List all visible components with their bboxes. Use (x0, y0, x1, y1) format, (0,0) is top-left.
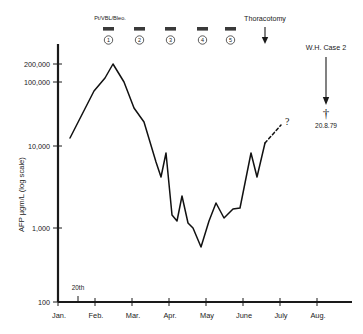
treatment-cycle-4: 4 (197, 27, 208, 44)
thoracotomy-arrow-head (262, 37, 268, 44)
thoracotomy-annotation: Thoracotomy (244, 14, 286, 44)
y-tick-label-100: 100 (38, 298, 50, 307)
treatment-cycle-2: 2 (134, 27, 145, 44)
cycle-bar-5 (225, 27, 236, 31)
y-tick-label-200000: 200,000 (24, 60, 50, 69)
cycle-number-4: 4 (201, 37, 204, 43)
cycle-number-5: 5 (229, 37, 232, 43)
chart-canvas: 200,000 100,000 10,000 1,000 100 AFP µgm… (0, 0, 363, 334)
start-day-label: 20th (72, 284, 85, 291)
y-axis-ticks: 200,000 100,000 10,000 1,000 100 (24, 60, 62, 307)
case-label: W.H. Case 2 (306, 43, 346, 52)
cycle-bar-1 (103, 27, 114, 31)
afp-curve-measured (70, 64, 265, 247)
case-death-annotation: W.H. Case 2 † 20.8.79 (306, 43, 346, 129)
y-tick-label-10000: 10,000 (28, 142, 50, 151)
death-arrow-head (323, 97, 329, 105)
x-tick-label-july: July (274, 311, 287, 320)
treatment-cycle-5: 5 (225, 27, 236, 44)
cycle-number-2: 2 (138, 37, 141, 43)
death-date-label: 20.8.79 (315, 122, 337, 129)
death-dagger-icon: † (323, 106, 330, 121)
cycle-bar-3 (165, 27, 176, 31)
treatment-cycle-3: 3 (165, 27, 176, 44)
uncertainty-question-mark: ? (285, 116, 290, 127)
cycle-bar-4 (197, 27, 208, 31)
treatment-cycles-group: 1 2 3 4 5 (103, 27, 236, 44)
start-day-note: 20th (72, 284, 85, 302)
y-axis-title: AFP µgm/L (log scale) (17, 157, 26, 232)
x-tick-label-aug: Aug. (310, 311, 325, 320)
y-tick-label-100000: 100,000 (24, 78, 50, 87)
y-tick-label-1000: 1,000 (32, 224, 50, 233)
x-tick-label-may: May (200, 311, 214, 320)
afp-curve-projected (265, 125, 281, 143)
axis-group (58, 44, 352, 302)
afp-tumour-marker-chart: 200,000 100,000 10,000 1,000 100 AFP µgm… (0, 0, 363, 334)
cycle-number-1: 1 (107, 37, 110, 43)
x-tick-label-mar: Mar. (126, 311, 140, 320)
x-tick-label-feb: Feb. (89, 311, 104, 320)
thoracotomy-label: Thoracotomy (244, 14, 286, 23)
x-tick-label-apr: Apr. (163, 311, 176, 320)
cycle-bar-2 (134, 27, 145, 31)
regimen-label: Pt/VBL/Bleo. (94, 15, 126, 21)
x-tick-label-jan: Jan. (52, 311, 66, 320)
cycle-number-3: 3 (169, 37, 172, 43)
x-tick-label-june: June (236, 311, 252, 320)
treatment-cycle-1: 1 (103, 27, 114, 44)
